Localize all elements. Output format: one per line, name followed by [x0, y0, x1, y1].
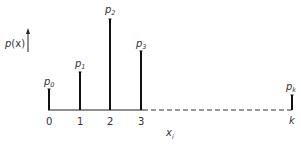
bar-p3 — [140, 51, 143, 110]
bar-p1 — [79, 72, 82, 110]
bar-pk — [291, 95, 294, 110]
bar-p2 — [109, 19, 112, 110]
x-axis-label: xi — [165, 127, 174, 141]
y-axis-arrow-icon — [26, 28, 30, 52]
tick-k: k — [289, 115, 296, 126]
tick-0: 0 — [46, 116, 52, 127]
tick-2: 2 — [107, 116, 113, 127]
bar-label-p3: p3 — [135, 38, 147, 51]
bar-label-pk: pk — [285, 81, 296, 94]
probability-mass-chart: p(x) p0 p1 p2 p3 pk 0 1 2 3 k xi — [0, 0, 301, 147]
bar-label-p1: p1 — [74, 58, 86, 71]
bar-p0 — [48, 89, 51, 110]
bar-label-p0: p0 — [43, 76, 55, 89]
tick-3: 3 — [138, 116, 144, 127]
tick-1: 1 — [77, 116, 83, 127]
bar-label-p2: p2 — [104, 4, 116, 17]
y-axis-label: p(x) — [4, 38, 25, 49]
